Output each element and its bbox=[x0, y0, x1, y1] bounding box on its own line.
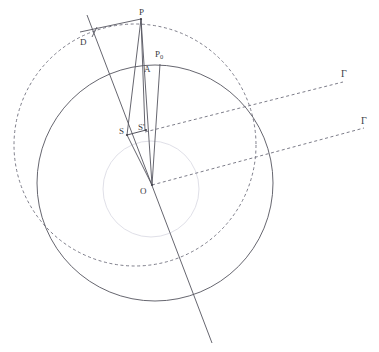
dashed-circle bbox=[14, 24, 256, 266]
point-label-o: O bbox=[140, 187, 147, 196]
segment-p0-o bbox=[152, 64, 160, 185]
faint-inner-circle bbox=[103, 141, 199, 237]
point-label-d: D bbox=[80, 38, 87, 47]
ray-gamma-lower bbox=[152, 128, 364, 185]
point-label-p0-subscript: 0 bbox=[160, 53, 163, 60]
point-label-s: S bbox=[119, 127, 124, 136]
outer-solid-circle bbox=[37, 65, 273, 301]
figure-canvas bbox=[0, 0, 379, 352]
point-label-a: A bbox=[144, 65, 151, 74]
gamma-label-lower: Γ bbox=[361, 116, 367, 126]
point-marker-s-prime bbox=[145, 129, 147, 131]
point-label-s-prime: S' bbox=[138, 123, 145, 132]
geometry-figure: P P0 D A S S' O Γ Γ bbox=[0, 0, 379, 352]
point-marker-p bbox=[140, 18, 142, 20]
segment-p-s bbox=[127, 19, 141, 135]
gamma-label-upper: Γ bbox=[341, 69, 347, 79]
ray-gamma-upper bbox=[145, 82, 343, 132]
point-marker-s bbox=[126, 134, 128, 136]
point-marker-o bbox=[151, 184, 153, 186]
point-label-p0: P0 bbox=[155, 50, 163, 59]
point-label-p: P bbox=[139, 8, 144, 17]
